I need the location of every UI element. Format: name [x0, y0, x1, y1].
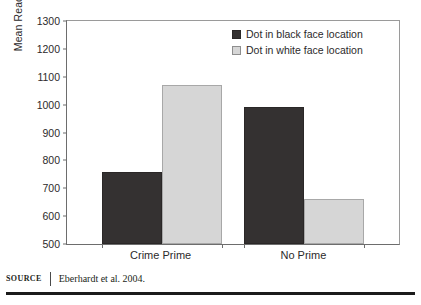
source-text: Eberhardt et al. 2004.	[51, 272, 145, 286]
legend-swatch-dark-icon	[232, 30, 241, 39]
x-axis-tick-mark	[222, 244, 223, 248]
source-tag: SOURCE	[6, 272, 51, 286]
x-axis-category-label: No Prime	[280, 249, 326, 261]
y-axis-tick-mark	[63, 216, 67, 217]
bar-crime-prime-series-2	[162, 85, 222, 244]
y-axis-tick-label: 1300	[7, 15, 67, 27]
y-axis-tick-label: 800	[7, 154, 67, 166]
y-axis-tick-label: 700	[7, 182, 67, 194]
y-axis-tick-mark	[63, 244, 67, 245]
y-axis-tick-mark	[63, 188, 67, 189]
legend-label-black-face: Dot in black face location	[246, 28, 363, 40]
legend-item-black-face: Dot in black face location	[232, 27, 363, 41]
x-axis-tick-mark	[102, 244, 103, 248]
y-axis-tick-label: 500	[7, 238, 67, 250]
bar-no-prime-series-1	[244, 107, 304, 244]
y-axis-tick-mark	[63, 160, 67, 161]
legend-swatch-light-icon	[232, 46, 241, 55]
y-axis-tick-label: 600	[7, 210, 67, 222]
source-note: SOURCE Eberhardt et al. 2004.	[6, 272, 145, 286]
y-axis-title: Mean Reaction (ms)	[12, 0, 28, 78]
y-axis-tick-label: 1000	[7, 99, 67, 111]
x-axis-tick-mark	[244, 244, 245, 248]
chart-legend: Dot in black face location Dot in white …	[232, 27, 363, 59]
y-axis-tick-label: 900	[7, 127, 67, 139]
x-axis-category-label: Crime Prime	[130, 249, 191, 261]
y-axis-tick-mark	[63, 48, 67, 49]
bottom-divider	[6, 292, 415, 295]
x-axis-tick-mark	[364, 244, 365, 248]
y-axis-tick-mark	[63, 132, 67, 133]
y-axis-tick-label: 1200	[7, 43, 67, 55]
legend-label-white-face: Dot in white face location	[246, 44, 363, 56]
legend-item-white-face: Dot in white face location	[232, 43, 363, 57]
y-axis-tick-mark	[63, 21, 67, 22]
y-axis-tick-mark	[63, 76, 67, 77]
bar-no-prime-series-2	[304, 199, 364, 244]
figure: Mean Reaction (ms) 500600700800900100011…	[0, 0, 421, 305]
y-axis-tick-mark	[63, 104, 67, 105]
y-axis-tick-label: 1100	[7, 71, 67, 83]
bar-crime-prime-series-1	[102, 172, 162, 244]
